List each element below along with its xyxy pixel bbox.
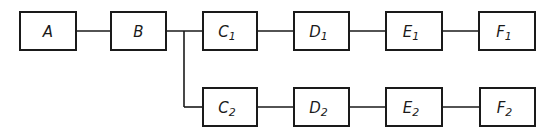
block-B: B — [111, 12, 166, 50]
block-D2: D2 — [294, 88, 349, 126]
block-label: B — [133, 23, 143, 41]
blocks: ABC1D1E1F1C2D2E2F2 — [20, 12, 535, 126]
block-D1: D1 — [294, 12, 349, 50]
block-label: A — [42, 23, 53, 41]
block-F1: F1 — [479, 12, 535, 50]
block-C2: C2 — [203, 88, 257, 126]
block-E2: E2 — [386, 88, 442, 126]
block-C1: C1 — [203, 12, 257, 50]
block-E1: E1 — [386, 12, 442, 50]
block-diagram: ABC1D1E1F1C2D2E2F2 — [0, 0, 554, 137]
block-F2: F2 — [480, 88, 535, 126]
block-A: A — [20, 12, 76, 50]
